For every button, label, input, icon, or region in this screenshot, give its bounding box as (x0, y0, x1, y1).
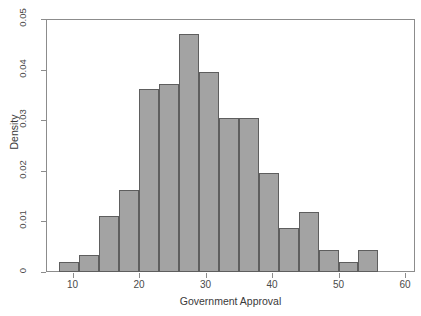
histogram-bar (99, 216, 119, 272)
x-axis-tick (405, 273, 406, 278)
x-axis-label: Government Approval (46, 295, 415, 307)
histogram-bar (119, 190, 139, 272)
y-axis-tick-label: 0.02 (17, 155, 28, 183)
histogram-bar (219, 118, 239, 272)
y-axis-tick-label: 0.05 (17, 4, 28, 32)
x-axis-tick-label: 30 (191, 279, 221, 290)
histogram-bar (239, 118, 259, 272)
y-axis-tick (41, 171, 46, 172)
x-axis-tick-label: 10 (58, 279, 88, 290)
histogram-bar (259, 173, 279, 272)
x-axis-tick (206, 273, 207, 278)
x-axis-tick-label: 20 (124, 279, 154, 290)
histogram-bar (159, 84, 179, 272)
histogram-bar (339, 262, 359, 272)
chart-title (0, 0, 421, 2)
x-axis-tick-label: 40 (257, 279, 287, 290)
y-axis-tick (41, 221, 46, 222)
histogram-bar (139, 89, 159, 272)
x-axis-tick (339, 273, 340, 278)
histogram-bar (358, 250, 378, 272)
histogram-bar (279, 228, 299, 272)
y-axis-tick-label: 0 (17, 257, 28, 285)
plot-area (46, 19, 415, 272)
histogram-bar (179, 34, 199, 272)
y-axis-tick (41, 19, 46, 20)
y-axis-tick-label: 0.01 (17, 206, 28, 234)
x-axis-tick-label: 60 (390, 279, 420, 290)
histogram-bar (79, 255, 99, 272)
histogram-bar (319, 250, 339, 272)
x-axis-tick (272, 273, 273, 278)
histogram-bar (59, 262, 79, 272)
y-axis-tick (41, 272, 46, 273)
histogram-figure: Density Government Approval 00.010.020.0… (0, 0, 421, 316)
x-axis-tick (73, 273, 74, 278)
y-axis-tick-label: 0.03 (17, 105, 28, 133)
histogram-bar (199, 72, 219, 272)
x-axis-tick (139, 273, 140, 278)
y-axis-tick-label: 0.04 (17, 54, 28, 82)
y-axis-tick (41, 70, 46, 71)
x-axis-tick-label: 50 (324, 279, 354, 290)
y-axis-tick (41, 120, 46, 121)
histogram-bar (299, 212, 319, 272)
